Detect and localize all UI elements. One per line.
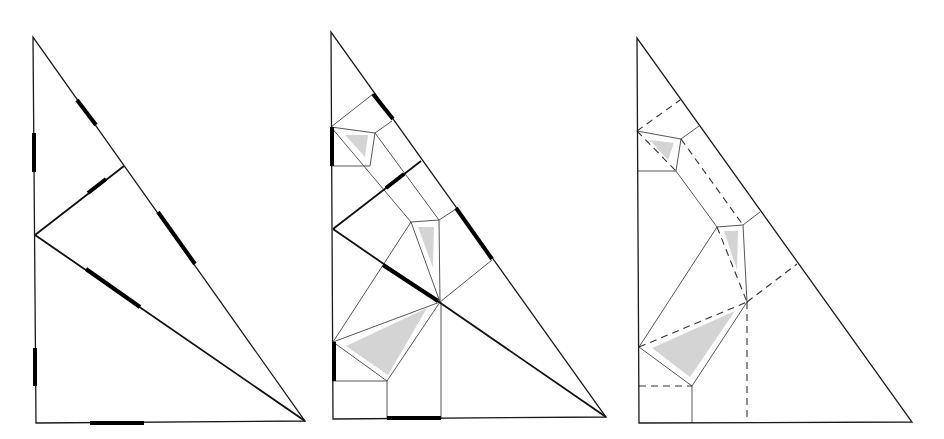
diagram-canvas (0, 0, 944, 439)
dashed-fold-line (747, 264, 797, 302)
shaded-region (652, 311, 735, 377)
triangle-panel-1 (33, 37, 305, 423)
dashed-fold-line (681, 139, 743, 225)
crease-line (331, 127, 411, 222)
crease-line (637, 131, 681, 139)
crease-line (375, 121, 392, 133)
crease-line (681, 126, 699, 139)
thick-edge-mark (456, 208, 492, 259)
crease-line (331, 127, 375, 133)
thick-edge-mark (88, 179, 106, 193)
thick-edge-mark (383, 265, 438, 301)
thick-edge-mark (86, 269, 140, 307)
crease-line (370, 133, 375, 166)
crease-line (717, 225, 743, 227)
shaded-region (346, 308, 427, 375)
crease-line (676, 139, 681, 171)
crease-line (439, 220, 440, 302)
shaded-region (345, 135, 368, 157)
crease-line (331, 94, 373, 127)
main-fold-line (35, 166, 124, 235)
triangle-panel-2 (331, 32, 606, 419)
dashed-fold-line (637, 100, 680, 131)
triangle-panel-3 (637, 38, 912, 423)
crease-line (676, 171, 717, 227)
crease-line (439, 209, 456, 220)
crease-line (440, 260, 492, 302)
thick-edge-mark (386, 174, 404, 188)
crease-line (411, 220, 439, 222)
crease-line (743, 225, 747, 302)
main-fold-line (333, 229, 606, 417)
crease-line (743, 212, 760, 225)
thick-edge-mark (373, 94, 393, 119)
crease-line (375, 133, 439, 220)
thick-edge-mark (77, 100, 96, 125)
main-fold-line (35, 235, 305, 421)
thick-edge-mark (158, 212, 195, 264)
